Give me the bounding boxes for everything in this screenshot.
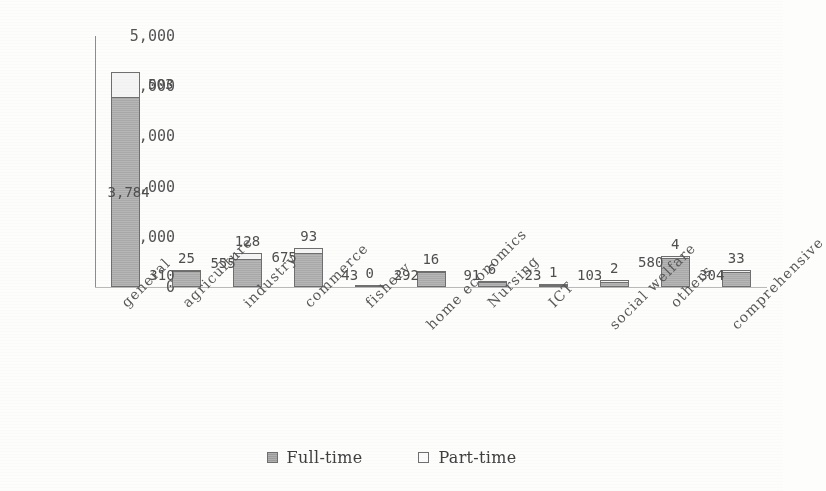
bar-value-label-part-time: 93 — [300, 228, 317, 244]
bar-value-label-part-time: 33 — [728, 250, 745, 266]
bar-group — [600, 36, 629, 287]
bar-value-label-part-time: 503 — [148, 76, 173, 92]
bar-group — [111, 36, 140, 287]
legend-label-full-time: Full-time — [287, 448, 363, 467]
bar-stack — [722, 270, 751, 287]
chart-legend: Full-time Part-time — [0, 448, 783, 467]
plot-area: 01,0002,0003,0004,0005,000 3,78450331025… — [95, 36, 767, 287]
bar-segment-full-time — [417, 272, 446, 287]
bar-stack — [417, 271, 446, 287]
legend-swatch-part-time-icon — [418, 452, 429, 463]
bar-segment-part-time — [111, 72, 140, 97]
legend-label-part-time: Part-time — [438, 448, 516, 467]
bar-stack — [111, 72, 140, 287]
legend-item-full-time: Full-time — [267, 448, 363, 467]
bar-segment-full-time — [600, 282, 629, 287]
legend-item-part-time: Part-time — [418, 448, 516, 467]
bar-value-label-part-time: 1 — [549, 264, 557, 280]
bar-value-label-part-time: 16 — [422, 251, 439, 267]
bar-value-label-full-time: 103 — [577, 267, 602, 283]
bar-value-label-part-time: 0 — [366, 265, 374, 281]
bar-group — [539, 36, 568, 287]
bar-stack — [600, 280, 629, 287]
bar-group — [417, 36, 446, 287]
bar-group — [294, 36, 323, 287]
bar-value-label-part-time: 25 — [178, 250, 195, 266]
bar-value-label-full-time: 3,784 — [108, 184, 150, 200]
bar-segment-full-time — [722, 272, 751, 287]
legend-swatch-full-time-icon — [267, 452, 278, 463]
bar-value-label-part-time: 2 — [610, 260, 618, 276]
